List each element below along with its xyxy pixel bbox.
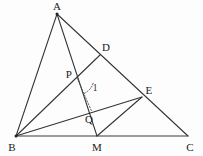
vertex-dot-A	[56, 13, 59, 16]
geometry-figure: 1ABCMDEPQ	[0, 0, 203, 156]
vertex-label-A: A	[53, 1, 61, 12]
vertex-label-P: P	[66, 69, 72, 80]
vertex-label-C: C	[186, 142, 194, 153]
vertex-label-E: E	[146, 85, 153, 96]
segment-be	[16, 97, 142, 136]
vertex-label-M: M	[92, 142, 102, 153]
angle-label-1: 1	[93, 84, 98, 94]
segment-ab	[16, 14, 57, 136]
segment-me	[97, 97, 142, 136]
vertex-label-B: B	[8, 142, 16, 153]
vertex-label-Q: Q	[85, 114, 93, 125]
figure-canvas	[0, 0, 203, 156]
vertex-dot-B	[15, 135, 18, 138]
segments-layer	[16, 14, 188, 136]
vertex-label-D: D	[102, 42, 110, 53]
